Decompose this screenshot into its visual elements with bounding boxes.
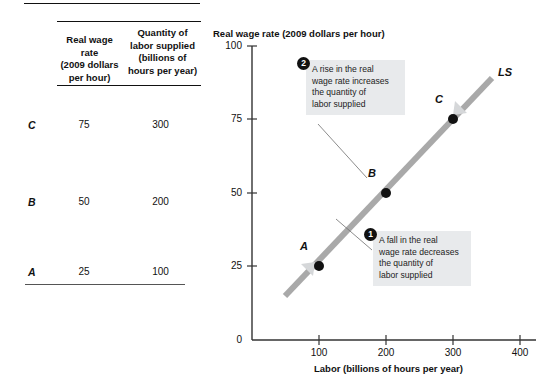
x-tick-label-200: 200 [373,347,399,358]
top-cropped-rule [24,3,200,4]
callout-2-leader-line [318,124,367,178]
table-row-letter-b: B [28,196,42,208]
supply-schedule-table: Real wage rate (2009 dollars per hour) Q… [0,8,205,293]
y-tick-label-0: 0 [216,334,242,345]
point-label-c: C [435,93,443,105]
table-cell-qty-a: 100 [124,266,197,277]
column-header-quantity-of-labor-supplied: Quantity of labor supplied (billions of … [124,27,201,77]
callout-1-badge: 1 [364,228,377,241]
x-tick-label-100: 100 [306,347,332,358]
data-point-b [381,188,391,198]
column-header-real-wage-rate: Real wage rate (2009 dollars per hour) [57,34,122,84]
chart-canvas [206,0,542,383]
table-row-letter-c: C [28,119,42,131]
table-bottom-rule [25,284,185,285]
x-tick-label-300: 300 [440,347,466,358]
callout-2-text: A rise in the real wage rate increases t… [306,60,405,115]
x-tick-label-400: 400 [507,347,533,358]
table-cell-wage-b: 50 [57,196,111,207]
callout-1-text: A fall in the real wage rate decreases t… [373,231,471,286]
data-point-a [314,261,324,271]
table-header-bottom-rule [57,85,201,86]
table-cell-wage-a: 25 [57,266,111,277]
table-header-top-rule [57,21,201,22]
y-tick-label-50: 50 [216,187,242,198]
y-tick-label-100: 100 [216,40,242,51]
point-label-a: A [300,240,308,252]
ls-curve-label: LS [498,66,512,78]
table-cell-qty-b: 200 [124,196,197,207]
table-row-letter-a: A [28,266,42,278]
table-cell-wage-c: 75 [57,119,111,130]
labor-supply-chart: Real wage rate (2009 dollars per hour) L… [206,0,542,383]
point-label-b: B [368,167,376,179]
callout-2-badge: 2 [297,57,310,70]
data-point-c [448,114,458,124]
table-cell-qty-c: 300 [124,119,197,130]
y-tick-label-75: 75 [216,113,242,124]
y-tick-label-25: 25 [216,260,242,271]
